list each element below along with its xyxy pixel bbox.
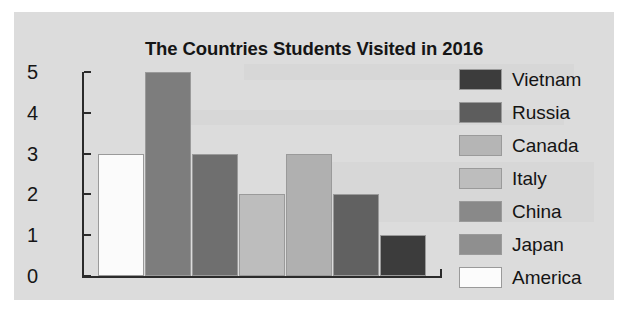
bar-series <box>84 72 442 276</box>
legend-item-label: Canada <box>512 132 579 160</box>
legend-swatch-icon <box>459 102 502 123</box>
legend-item: Russia <box>459 99 609 129</box>
bar <box>192 154 238 276</box>
legend-swatch-icon <box>459 267 502 288</box>
legend-item-label: China <box>512 198 562 226</box>
legend-item-label: Japan <box>512 231 564 259</box>
chart-title: The Countries Students Visited in 2016 <box>14 38 614 60</box>
legend-item-label: Vietnam <box>512 66 581 94</box>
y-axis-tick-label: 3 <box>14 144 38 164</box>
y-axis-tick-label: 4 <box>14 103 38 123</box>
legend-item: Japan <box>459 231 609 261</box>
legend-item: Vietnam <box>459 66 609 96</box>
bar <box>239 194 285 276</box>
chart-figure: The Countries Students Visited in 2016 5… <box>0 0 628 319</box>
chart-legend: VietnamRussiaCanadaItalyChinaJapanAmeric… <box>459 66 609 298</box>
bar <box>286 154 332 276</box>
y-axis-tick-label: 5 <box>14 62 38 82</box>
legend-swatch-icon <box>459 201 502 222</box>
y-axis-tick-label: 0 <box>14 266 38 286</box>
legend-item-label: Russia <box>512 99 570 127</box>
legend-item-label: America <box>512 264 582 292</box>
legend-item-label: Italy <box>512 165 547 193</box>
bar <box>333 194 379 276</box>
bar <box>98 154 144 276</box>
bar <box>145 72 191 276</box>
legend-item: Canada <box>459 132 609 162</box>
legend-swatch-icon <box>459 69 502 90</box>
bar <box>380 235 426 276</box>
chart-panel: The Countries Students Visited in 2016 5… <box>14 12 614 300</box>
x-axis-line <box>82 276 442 278</box>
legend-swatch-icon <box>459 135 502 156</box>
y-axis-tick-label: 1 <box>14 225 38 245</box>
legend-swatch-icon <box>459 234 502 255</box>
legend-item: China <box>459 198 609 228</box>
legend-swatch-icon <box>459 168 502 189</box>
legend-item: Italy <box>459 165 609 195</box>
plot-area: 543210 <box>42 64 442 286</box>
y-axis-tick-label: 2 <box>14 184 38 204</box>
legend-item: America <box>459 264 609 294</box>
